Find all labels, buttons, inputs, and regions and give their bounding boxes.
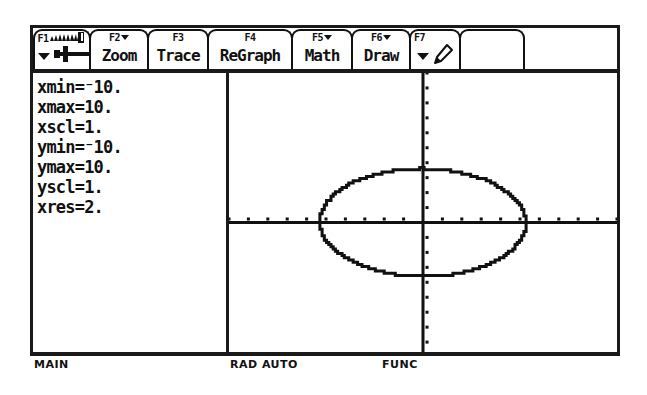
toolbar-tab-f2-label: Zoom	[102, 44, 137, 68]
toolbar-tab-f4-fkey: F4	[244, 32, 255, 43]
toolbar: F1	[33, 28, 617, 73]
calculator-screen: F1	[30, 25, 620, 375]
toolbar-tab-f5-fkey: F5	[312, 32, 323, 43]
toolbar-tab-f6-draw[interactable]: F6 Draw	[351, 29, 411, 69]
chevron-down-icon-f5	[324, 35, 332, 40]
window-var-yscl: yscl=1.	[37, 177, 226, 197]
status-bar: MAIN RAD AUTO FUNC	[30, 352, 620, 375]
status-graph-mode: FUNC	[382, 358, 418, 371]
window-var-xmin: xmin=⁻10.	[37, 77, 226, 97]
toolbar-tab-f7-pen[interactable]: F7	[409, 29, 461, 69]
screen-body: xmin=⁻10. xmax=10. xscl=1. ymin=⁻10. yma…	[33, 73, 617, 372]
status-folder: MAIN	[34, 358, 69, 371]
window-var-xmax: xmax=10.	[37, 97, 226, 117]
pencil-icon	[432, 43, 454, 69]
toolbar-tab-f3-fkey: F3	[172, 32, 183, 43]
graph-panel[interactable]	[229, 73, 617, 372]
wrench-icon	[52, 46, 90, 66]
toolbar-tab-f4-regraph[interactable]: F4 ReGraph	[207, 29, 293, 69]
toolbar-tab-f1-tools[interactable]: F1	[33, 29, 91, 69]
toolbar-tab-f6-label: Draw	[364, 44, 399, 68]
toolbar-tab-f5-label: Math	[305, 44, 340, 68]
toolbar-tab-blank-fkey	[463, 31, 521, 44]
chevron-down-icon-f7	[417, 53, 429, 60]
toolbar-tab-blank[interactable]	[459, 29, 525, 69]
status-angle-mode: RAD AUTO	[230, 358, 298, 371]
chevron-down-icon-f2	[121, 35, 129, 40]
toolbar-tab-f5-math[interactable]: F5 Math	[291, 29, 353, 69]
plot-axes	[229, 73, 617, 372]
toolbar-tab-f3-trace[interactable]: F3 Trace	[147, 29, 209, 69]
window-var-ymin: ymin=⁻10.	[37, 137, 226, 157]
toolbar-tab-f1-fkey: F1	[38, 32, 49, 45]
chevron-down-icon-f6	[383, 35, 391, 40]
window-variables-panel: xmin=⁻10. xmax=10. xscl=1. ymin=⁻10. yma…	[33, 73, 229, 372]
window-var-xres: xres=2.	[37, 197, 226, 217]
chevron-down-icon-f1	[38, 53, 50, 60]
toolbar-tab-f4-label: ReGraph	[220, 44, 280, 68]
toolbar-tab-f2-zoom[interactable]: F2 Zoom	[89, 29, 149, 69]
toolbar-tab-f7-fkey: F7	[414, 32, 425, 43]
window-var-xscl: xscl=1.	[37, 117, 226, 137]
toolbar-tab-f2-fkey: F2	[109, 32, 120, 43]
toolbar-tab-f6-fkey: F6	[371, 32, 382, 43]
toolbar-tab-f3-label: Trace	[156, 44, 199, 68]
window-var-ymax: ymax=10.	[37, 157, 226, 177]
graph-plot	[229, 73, 617, 372]
